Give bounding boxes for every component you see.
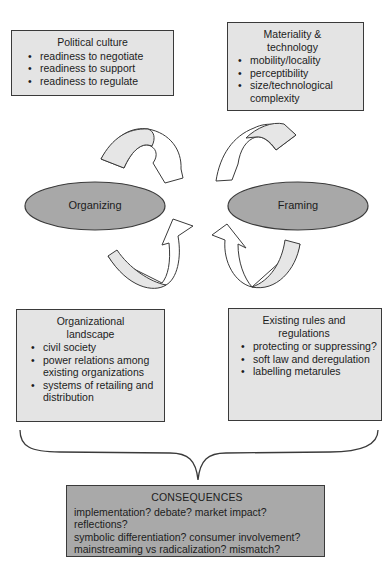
list-item: systems of retailing and distribution <box>43 379 160 404</box>
arrow-top-left-icon <box>101 129 183 183</box>
list-item: readiness to regulate <box>40 75 167 88</box>
arrow-bottom-left-icon <box>108 219 193 288</box>
consequences-box: CONSEQUENCES implementation? debate? mar… <box>66 485 325 557</box>
existing-rules-box: Existing rules and regulations protectin… <box>228 308 382 421</box>
list-item: readiness to support <box>40 62 167 75</box>
materiality-title-line1: Materiality & <box>228 28 357 41</box>
list-item: mobility/locality <box>250 54 357 67</box>
list-item: protecting or suppressing? <box>253 340 377 353</box>
materiality-technology-box: Materiality & technology mobility/locali… <box>227 22 364 111</box>
consequences-line: mainstreaming vs radicalization? mismatc… <box>74 543 320 556</box>
materiality-title: Materiality & technology <box>228 28 357 53</box>
organizational-landscape-box: Organizational landscape civil society p… <box>16 309 165 422</box>
consequences-line: implementation? debate? market impact? r… <box>74 506 320 531</box>
organizational-title-line2: landscape <box>21 328 160 341</box>
organizing-label: Organizing <box>45 199 145 211</box>
rules-title-line1: Existing rules and <box>231 314 377 327</box>
rules-list: protecting or suppressing? soft law and … <box>231 340 377 378</box>
rules-title-line2: regulations <box>231 327 377 340</box>
framing-label: Framing <box>248 199 348 211</box>
list-item: civil society <box>43 341 160 354</box>
political-culture-box: Political culture readiness to negotiate… <box>11 30 174 96</box>
arrow-bottom-right-icon <box>212 224 300 288</box>
consequences-title: CONSEQUENCES <box>74 491 320 504</box>
organizational-title-line1: Organizational <box>21 315 160 328</box>
rules-title: Existing rules and regulations <box>231 314 377 339</box>
brace-connector <box>20 430 378 480</box>
materiality-title-line2: technology <box>228 41 357 54</box>
list-item: perceptibility <box>250 67 357 80</box>
arrow-top-right-icon <box>216 123 296 181</box>
list-item: size/technological complexity <box>250 79 357 104</box>
list-item: readiness to negotiate <box>40 50 167 63</box>
list-item: labelling metarules <box>253 365 377 378</box>
organizational-title: Organizational landscape <box>21 315 160 340</box>
materiality-list: mobility/locality perceptibility size/te… <box>228 54 357 104</box>
organizational-list: civil society power relations among exis… <box>21 341 160 404</box>
political-culture-title: Political culture <box>18 36 167 49</box>
consequences-line: symbolic differentiation? consumer invol… <box>74 531 320 544</box>
list-item: power relations among existing organizat… <box>43 354 160 379</box>
political-culture-list: readiness to negotiate readiness to supp… <box>18 50 167 88</box>
list-item: soft law and deregulation <box>253 353 377 366</box>
